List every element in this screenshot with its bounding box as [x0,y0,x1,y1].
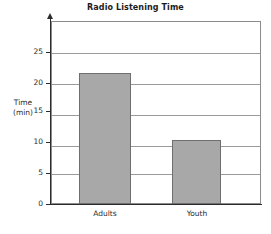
y-tick-label-5: 5 [13,169,43,177]
y-axis-title-line-1: Time [2,98,44,108]
bar-chart: Radio Listening Time 0 5 10 15 20 25 Tim… [0,0,271,234]
y-tick-mark [46,142,51,143]
y-axis-title: Time (min) [2,98,44,118]
bar-adults [79,73,131,204]
y-tick-mark [46,52,51,53]
y-axis-title-line-2: (min) [2,108,44,118]
y-tick-mark [46,173,51,174]
y-tick-label-20: 20 [13,79,43,87]
bar-youth [172,140,221,204]
x-axis-line [50,204,262,205]
y-tick-mark [46,204,51,205]
y-tick-mark [46,83,51,84]
y-tick-label-0: 0 [13,200,43,208]
gridline [52,53,260,54]
x-tick-label-adults: Adults [75,209,135,219]
x-tick-label-youth: Youth [167,209,227,219]
y-tick-label-25: 25 [13,48,43,56]
y-tick-mark [46,111,51,112]
y-axis-arrow-icon [47,13,53,19]
y-tick-label-10: 10 [13,138,43,146]
chart-title: Radio Listening Time [0,3,271,13]
